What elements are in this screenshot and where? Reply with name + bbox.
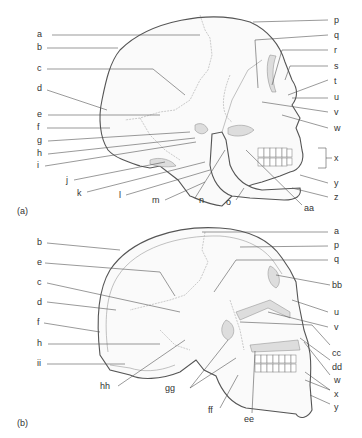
label-b-ii: ii: [37, 359, 41, 368]
label-b-p: p: [334, 241, 339, 250]
label-b-h: h: [37, 339, 42, 348]
label-a-a: a: [37, 30, 42, 39]
label-b-d: d: [37, 298, 42, 307]
label-b-bb: bb: [332, 281, 342, 290]
label-a-y: y: [334, 179, 339, 188]
label-a-n: n: [199, 196, 204, 205]
label-b-v: v: [334, 323, 339, 332]
label-a-r: r: [334, 46, 337, 55]
label-a-c: c: [37, 64, 42, 73]
label-a-m: m: [152, 196, 160, 205]
label-b-u: u: [334, 308, 339, 317]
skull-illustration: [0, 0, 362, 438]
label-a-q: q: [334, 31, 339, 40]
label-b-w: w: [334, 376, 341, 385]
label-a-z: z: [334, 193, 339, 202]
panel-caption-a: (a): [17, 206, 28, 216]
label-b-b: b: [37, 238, 42, 247]
label-b-a: a: [334, 227, 339, 236]
label-b-ff: ff: [208, 406, 213, 415]
label-b-x: x: [334, 390, 339, 399]
label-a-v: v: [334, 108, 339, 117]
label-a-d: d: [37, 84, 42, 93]
label-a-o: o: [226, 198, 231, 207]
label-b-gg: gg: [165, 384, 175, 393]
label-a-p: p: [334, 16, 339, 25]
label-a-aa: aa: [304, 204, 314, 213]
label-b-hh: hh: [100, 382, 110, 391]
label-a-u: u: [334, 93, 339, 102]
sagittal-skull-drawing: [98, 228, 312, 418]
label-a-h: h: [37, 149, 42, 158]
label-a-t: t: [334, 77, 337, 86]
label-b-dd: dd: [332, 363, 342, 372]
label-b-ee: ee: [244, 415, 254, 424]
label-a-g: g: [37, 136, 42, 145]
label-b-f: f: [37, 318, 40, 327]
label-b-c: c: [37, 278, 42, 287]
label-b-y: y: [334, 403, 339, 412]
label-a-l: l: [119, 191, 121, 200]
label-b-q: q: [334, 255, 339, 264]
lateral-skull-drawing: [100, 15, 303, 206]
label-b-cc: cc: [332, 349, 341, 358]
label-a-w: w: [334, 124, 341, 133]
label-a-j: j: [66, 176, 68, 185]
label-a-e: e: [37, 110, 42, 119]
label-a-x: x: [334, 154, 339, 163]
label-a-s: s: [334, 62, 339, 71]
label-a-i: i: [37, 161, 39, 170]
label-a-k: k: [77, 189, 82, 198]
label-a-f: f: [37, 123, 40, 132]
panel-caption-b: (b): [17, 418, 28, 428]
skull-diagram: a b c d e f g h i j k l m n o aa p q r s…: [0, 0, 362, 438]
label-b-e: e: [37, 258, 42, 267]
label-a-b: b: [37, 43, 42, 52]
